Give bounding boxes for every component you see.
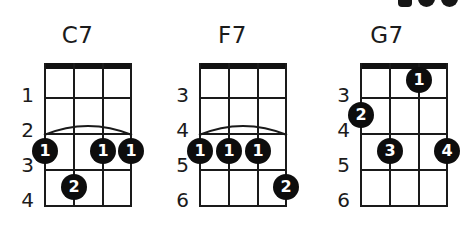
string-line-2 xyxy=(389,63,391,207)
fretboard-f7: 1 1 1 2 xyxy=(199,63,287,207)
fretboard-g7: 1 2 3 4 xyxy=(360,63,448,207)
string-line-4 xyxy=(446,63,448,207)
fret-number-label: 2 xyxy=(12,120,34,140)
finger-dot: 1 xyxy=(216,138,242,164)
barre-arc xyxy=(195,115,291,137)
fret-line xyxy=(199,205,287,207)
string-line-1 xyxy=(360,63,362,207)
fret-line xyxy=(44,97,132,99)
finger-dot: 4 xyxy=(434,138,460,164)
chord-title-g7: G7 xyxy=(310,21,464,49)
chord-diagram-c7: C7 1 2 3 4 1 1 1 2 xyxy=(0,0,155,227)
fret-number-label: 4 xyxy=(167,120,189,140)
finger-dot: 1 xyxy=(406,67,432,93)
chord-title-f7: F7 xyxy=(155,21,310,49)
fret-line xyxy=(360,205,448,207)
finger-dot: 3 xyxy=(377,138,403,164)
nut-line xyxy=(44,63,132,69)
finger-dot: 1 xyxy=(187,138,213,164)
fret-line xyxy=(44,205,132,207)
finger-dot: 1 xyxy=(90,138,116,164)
nut-line xyxy=(360,63,448,69)
fret-line xyxy=(44,169,132,171)
chord-title-c7: C7 xyxy=(0,21,155,49)
chord-diagram-g7: G7 3 4 5 6 1 2 3 4 xyxy=(310,0,464,227)
finger-dot: 1 xyxy=(118,138,144,164)
fret-number-label: 6 xyxy=(328,190,350,210)
fret-line xyxy=(360,97,448,99)
barre-arc xyxy=(40,115,136,137)
fret-number-label: 1 xyxy=(12,85,34,105)
nut-line xyxy=(199,63,287,69)
finger-dot: 2 xyxy=(61,174,87,200)
chord-chart-page: C7 1 2 3 4 1 1 1 2 xyxy=(0,0,464,227)
fret-number-label: 5 xyxy=(328,155,350,175)
finger-dot: 2 xyxy=(348,102,374,128)
fret-line xyxy=(199,97,287,99)
fret-line xyxy=(360,133,448,135)
fretboard-c7: 1 1 1 2 xyxy=(44,63,132,207)
fret-line xyxy=(360,169,448,171)
fret-number-label: 4 xyxy=(328,120,350,140)
fret-number-label: 4 xyxy=(12,190,34,210)
finger-dot: 2 xyxy=(273,174,299,200)
fret-number-label: 5 xyxy=(167,155,189,175)
fret-number-label: 3 xyxy=(167,85,189,105)
fret-line xyxy=(199,169,287,171)
finger-dot: 1 xyxy=(32,138,58,164)
fret-number-label: 6 xyxy=(167,190,189,210)
chord-diagram-f7: F7 3 4 5 6 1 1 1 2 xyxy=(155,0,310,227)
fret-number-label: 3 xyxy=(328,85,350,105)
finger-dot: 1 xyxy=(245,138,271,164)
fret-number-label: 3 xyxy=(12,155,34,175)
